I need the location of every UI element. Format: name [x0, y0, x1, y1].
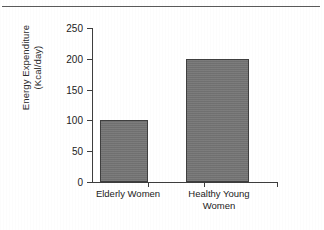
y-axis-line	[92, 28, 93, 182]
y-tick-100: 100	[87, 120, 92, 121]
y-axis-title: Energy Expenditure (Kcal/day)	[20, 0, 43, 143]
y-tick-150: 150	[87, 90, 92, 91]
x-category-label-elderly-women-line-1: Elderly Women	[96, 188, 160, 199]
y-tick-label-100: 100	[66, 114, 83, 127]
x-tick-boundary-1	[148, 182, 149, 187]
x-tick-boundary-3	[277, 182, 278, 187]
x-category-label-elderly-women: Elderly Women	[82, 188, 174, 200]
x-category-label-healthy-young-women-line-1: Healthy Young	[188, 188, 249, 199]
y-tick-0: 0	[87, 182, 92, 183]
y-tick-250: 250	[87, 28, 92, 29]
y-tick-label-200: 200	[66, 53, 83, 66]
x-axis-line	[92, 182, 278, 183]
y-tick-200: 200	[87, 59, 92, 60]
bar-chart-figure: Energy Expenditure (Kcal/day) 250 200 15…	[0, 0, 324, 230]
y-tick-label-150: 150	[66, 84, 83, 97]
x-category-label-healthy-young-women-line-2: Women	[203, 200, 236, 211]
y-tick-label-50: 50	[72, 145, 83, 158]
x-tick-boundary-2	[204, 182, 205, 187]
y-axis-title-line-2: (Kcal/day)	[31, 0, 43, 143]
y-axis-title-line-1: Energy Expenditure	[20, 25, 31, 110]
bar-healthy-young-women	[186, 59, 249, 182]
bar-elderly-women	[100, 120, 148, 182]
y-tick-50: 50	[87, 151, 92, 152]
plot-area: 250 200 150 100 50 0 Elderly Women Healt…	[92, 28, 278, 182]
x-category-label-healthy-young-women: Healthy Young Women	[174, 188, 264, 212]
y-tick-label-250: 250	[66, 22, 83, 35]
